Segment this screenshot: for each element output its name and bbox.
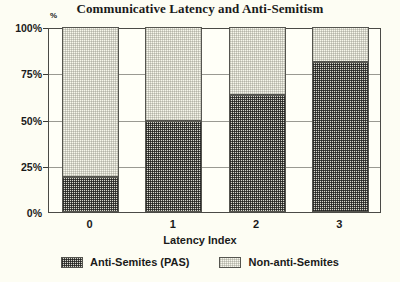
bar-0 [62,27,119,212]
chart-container: Communicative Latency and Anti-Semitism … [0,0,400,282]
legend-label: Non-anti-Semites [248,256,338,268]
chart-legend: Anti-Semites (PAS) Non-anti-Semites [0,256,400,268]
x-axis-tick-label: 0 [70,218,110,230]
legend-swatch-dark-crosshatch-icon [61,257,83,268]
legend-label: Anti-Semites (PAS) [90,256,189,268]
y-axis-tick-label: 25% [0,161,42,173]
bar-segment-non-anti-semites [145,27,202,121]
bar-segment-non-anti-semites [312,27,369,62]
bar-1 [145,27,202,212]
chart-title: Communicative Latency and Anti-Semitism [0,1,400,17]
y-axis-tick-label: 50% [0,115,42,127]
bar-segment-anti-semites [145,121,202,212]
x-axis-tick-label: 2 [236,218,276,230]
x-axis-title: Latency Index [0,234,400,246]
y-axis-tick-label: 0% [0,207,42,219]
y-axis-tick-label: 100% [0,22,42,34]
y-axis-unit-label: % [50,11,57,20]
legend-item-non-anti-semites: Non-anti-Semites [219,256,338,268]
x-axis-tick-label: 3 [319,218,359,230]
bar-2 [229,27,286,212]
y-axis-tick-label: 75% [0,68,42,80]
bar-3 [312,27,369,212]
legend-item-anti-semites: Anti-Semites (PAS) [61,256,189,268]
bar-segment-anti-semites [229,95,286,212]
bar-segment-anti-semites [312,62,369,212]
bar-segment-anti-semites [62,177,119,212]
plot-area [48,28,381,213]
x-axis-tick-label: 1 [153,218,193,230]
legend-swatch-light-stipple-icon [219,257,241,268]
bar-segment-non-anti-semites [229,27,286,95]
bar-segment-non-anti-semites [62,27,119,177]
